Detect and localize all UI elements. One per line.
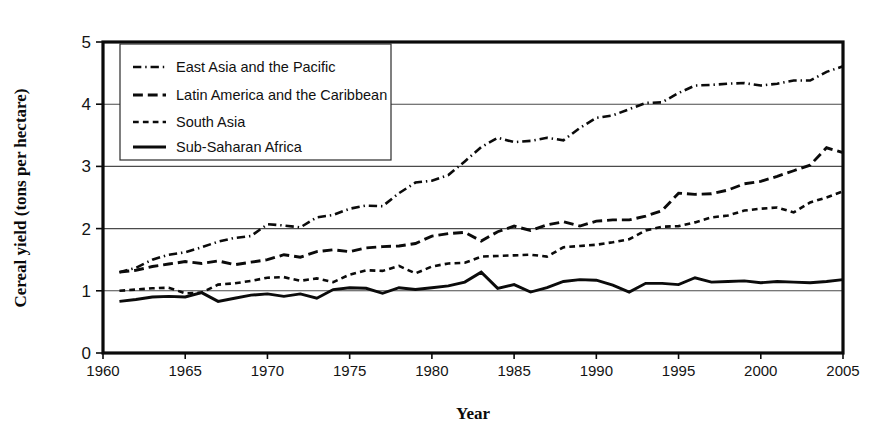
y-tick-label: 4 [82,95,91,114]
legend: East Asia and the PacificLatin America a… [120,44,391,160]
legend-label-3: Sub-Saharan Africa [176,139,303,155]
legend-label-2: South Asia [176,114,246,130]
x-tick-label: 1985 [497,362,530,379]
x-tick-label: 1960 [86,362,119,379]
x-tick-label: 1970 [251,362,284,379]
x-tick-label: 1990 [580,362,613,379]
legend-label-0: East Asia and the Pacific [176,59,336,75]
x-tick-label: 2005 [826,362,859,379]
x-tick-label: 1975 [333,362,366,379]
y-tick-label: 3 [82,157,91,176]
series-line-3 [119,272,843,301]
x-axis-title: Year [456,404,490,423]
cereal-yield-line-chart: 012345 196019651970197519801985199019952… [0,0,872,444]
y-tick-label: 0 [82,344,91,363]
x-tick-labels: 1960196519701975198019851990199520002005 [86,362,859,379]
x-tick-label: 1980 [415,362,448,379]
y-tick-label: 1 [82,282,91,301]
y-tick-label: 2 [82,220,91,239]
x-tick-label: 2000 [744,362,777,379]
y-tick-label: 5 [82,33,91,52]
x-tick-label: 1995 [662,362,695,379]
x-tick-label: 1965 [169,362,202,379]
legend-label-1: Latin America and the Caribbean [176,87,387,103]
y-tick-labels: 012345 [82,33,91,363]
y-axis-title: Cereal yield (tons per hectare) [11,88,30,307]
chart-figure: 012345 196019651970197519801985199019952… [0,0,872,444]
